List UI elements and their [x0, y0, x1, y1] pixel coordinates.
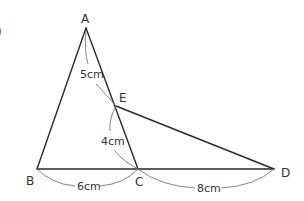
segment-ed — [116, 106, 274, 169]
point-label-b: B — [26, 174, 34, 188]
dimension-arc-ae — [85, 30, 88, 64]
length-label-cd: 8cm — [197, 182, 221, 195]
dimension-arc-ec — [110, 106, 116, 131]
length-label-ae: 5cm — [80, 68, 104, 81]
geometry-diagram: ) A B C D E 5cm 4cm 6cm 8cm — [0, 0, 304, 201]
point-label-e: E — [119, 91, 127, 105]
dimension-arc-bc — [100, 169, 138, 186]
dimension-arc-bc — [37, 169, 75, 186]
dimension-arc-cd — [138, 169, 195, 188]
point-label-c: C — [135, 175, 143, 189]
point-label-a: A — [81, 12, 90, 26]
dimension-arc-ae — [96, 84, 116, 106]
cropped-problem-number: ) — [0, 25, 2, 39]
segment-ab — [37, 28, 86, 169]
length-label-bc: 6cm — [77, 180, 101, 193]
dimension-arc-cd — [221, 169, 274, 188]
point-label-d: D — [281, 166, 290, 180]
length-label-ec: 4cm — [101, 135, 125, 148]
